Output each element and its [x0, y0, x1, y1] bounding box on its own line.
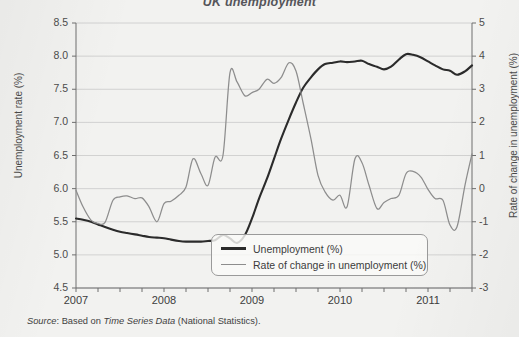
y-tick-label-right: 1 — [479, 149, 501, 161]
legend-label-rate-of-change: Rate of change in unemployment (%) — [253, 259, 426, 271]
y-tick-label-left: 6.5 — [34, 149, 68, 161]
y-tick-label-right: 3 — [479, 82, 501, 94]
y-tick-label-left: 7.5 — [34, 82, 68, 94]
y-tick-label-left: 5.0 — [34, 248, 68, 260]
legend-swatch-unemployment — [221, 247, 246, 249]
y-tick-label-right: -2 — [479, 248, 501, 260]
source-italic: Time Series Data — [104, 316, 176, 326]
x-tick-label: 2009 — [227, 294, 277, 306]
y-tick-label-right: 5 — [479, 16, 501, 28]
y-tick-label-left: 6.0 — [34, 182, 68, 194]
source-prefix: Source — [27, 316, 56, 326]
y-tick-label-left: 5.5 — [34, 215, 68, 227]
series-line-unemployment — [76, 54, 472, 243]
y-tick-label-left: 7.0 — [34, 115, 68, 127]
y-tick-label-right: -1 — [479, 215, 501, 227]
source-text-2: (National Statistics). — [178, 316, 261, 326]
x-tick-label: 2011 — [403, 294, 453, 306]
x-tick-label: 2010 — [315, 294, 365, 306]
x-tick-label: 2008 — [139, 294, 189, 306]
chart-legend: Unemployment (%) Rate of change in unemp… — [211, 234, 428, 276]
y-tick-label-right: 4 — [479, 49, 501, 61]
y-tick-label-right: 0 — [479, 182, 501, 194]
y-tick-label-left: 8.5 — [34, 16, 68, 28]
y-tick-label-left: 4.5 — [34, 281, 68, 293]
y-tick-label-left: 8.0 — [34, 49, 68, 61]
series-line-rate-of-change — [76, 63, 472, 231]
legend-swatch-rate-of-change — [221, 264, 246, 266]
y-tick-label-right: -3 — [479, 281, 501, 293]
x-tick-label: 2007 — [51, 294, 101, 306]
source-note: Source: Based on Time Series Data (Natio… — [27, 316, 261, 326]
chart-figure: UK unemployment Unemployment rate (%) Ra… — [0, 0, 519, 337]
y-tick-label-right: 2 — [479, 115, 501, 127]
plot-area — [0, 0, 519, 337]
source-text-1: Based on — [62, 316, 104, 326]
legend-label-unemployment: Unemployment (%) — [253, 243, 343, 255]
